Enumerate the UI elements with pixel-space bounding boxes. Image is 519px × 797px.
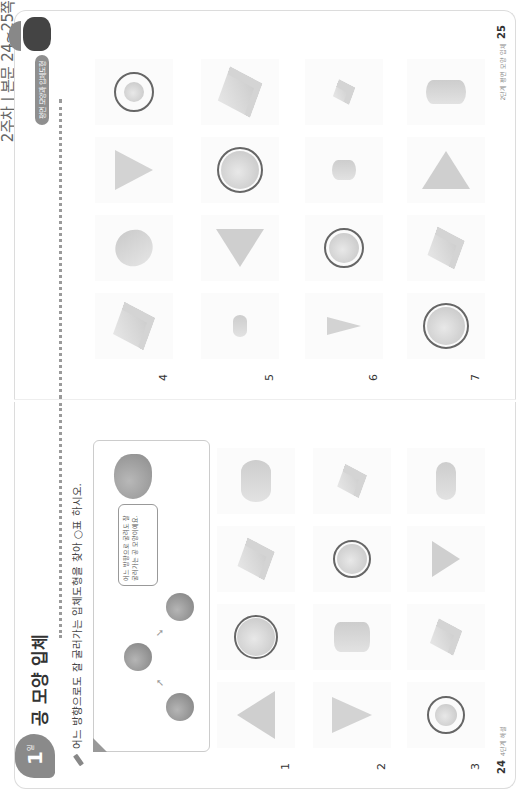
choice-cube[interactable] — [201, 59, 279, 125]
question-row-2: 2 — [313, 420, 393, 770]
ball-icon — [166, 693, 194, 721]
pyramid-icon — [216, 229, 264, 267]
arrow-icon: ➘ — [154, 629, 165, 637]
circle-mark — [423, 303, 469, 349]
page-footer: 2단계 평면 모양 입체25 — [496, 25, 507, 104]
circle-mark — [234, 615, 278, 659]
arrow-icon: ➚ — [154, 679, 165, 687]
question-row-3: 3 — [407, 420, 487, 770]
choice-pyramid[interactable] — [407, 526, 485, 592]
choice-sphere[interactable] — [217, 604, 295, 670]
choice-pyramid[interactable] — [217, 682, 295, 748]
instruction-text: 어느 방향으로도 잘 굴러가는 입체도형을 찾아 ○표 하시오. — [71, 483, 83, 749]
question-row-6: 6 — [305, 31, 385, 381]
question-row-7: 7 — [407, 31, 487, 381]
section-tag: 평면 모양과 입체도형 — [35, 55, 49, 125]
choice-cylinder[interactable] — [217, 448, 295, 514]
question-number: 3 — [469, 763, 482, 770]
pyramid-icon — [422, 151, 470, 189]
cube-icon — [333, 79, 355, 104]
question-row-4: 4 — [95, 31, 175, 381]
corner-fold-icon — [93, 738, 107, 752]
question-number: 4 — [157, 374, 170, 381]
cube-icon — [430, 619, 462, 656]
choice-cone[interactable] — [313, 682, 391, 748]
cylinder-disc-icon — [233, 315, 247, 337]
pyramid-icon — [237, 691, 275, 739]
choice-disc[interactable] — [201, 293, 279, 359]
choice-cube[interactable] — [95, 293, 173, 359]
instruction: 어느 방향으로도 잘 굴러가는 입체도형을 찾아 ○표 하시오. — [69, 483, 84, 766]
pencil-icon — [73, 754, 84, 767]
speech-bubble: 어느 방향으로 굴려도 잘 굴러가는 공 모양이에요. — [118, 504, 158, 586]
mascot-icon — [114, 454, 152, 499]
choice-cube[interactable] — [305, 59, 383, 125]
page-number: 25 — [496, 25, 507, 39]
page-24: 1 일 공 모양 입체 어느 방향으로도 잘 굴러가는 입체도형을 찾아 ○표 … — [14, 402, 516, 789]
dotted-divider — [59, 403, 62, 638]
choice-cube[interactable] — [217, 526, 295, 592]
cube-icon — [337, 464, 367, 498]
day-label: 일 — [25, 745, 35, 751]
choice-cylinder[interactable] — [407, 448, 485, 514]
choice-sphere[interactable] — [407, 293, 485, 359]
question-number: 5 — [263, 374, 276, 381]
cylinder-icon — [436, 462, 456, 500]
question-number: 6 — [367, 374, 380, 381]
choice-sphere[interactable] — [95, 59, 173, 125]
choice-pyramid[interactable] — [201, 215, 279, 281]
footer-label: 2단계 평면 모양 입체 — [499, 43, 506, 101]
question-row-1: 1 — [217, 420, 297, 770]
cylinder-icon — [108, 222, 160, 273]
cube-icon — [218, 67, 262, 118]
cylinder-icon — [426, 80, 466, 104]
question-number: 1 — [279, 763, 292, 770]
choice-cylinder[interactable] — [313, 604, 391, 670]
question-number: 2 — [375, 763, 388, 770]
mascot-icon — [23, 17, 51, 51]
page-number: 24 — [496, 760, 507, 774]
footer-label: 4단계 해설 — [499, 726, 506, 756]
cylinder-icon — [241, 460, 271, 502]
choice-cube[interactable] — [407, 215, 485, 281]
circle-mark — [333, 540, 371, 578]
choice-pyramid[interactable] — [407, 137, 485, 203]
page-25: 평면 모양과 입체도형 4 5 6 7 — [14, 10, 516, 400]
page-title: 공 모양 입체 — [26, 634, 51, 726]
day-badge: 1 일 — [15, 734, 55, 778]
question-row-5: 5 — [201, 31, 281, 381]
cylinder-icon — [332, 160, 356, 180]
choice-cylinder[interactable] — [305, 137, 383, 203]
cone-icon — [332, 697, 372, 733]
choice-sphere[interactable] — [407, 682, 485, 748]
circle-mark — [217, 147, 263, 193]
two-page-spread: 2주차 | 본문 24~25쪽 1 일 공 모양 입체 어느 방향으로도 잘 굴… — [0, 0, 519, 797]
choice-cylinder[interactable] — [95, 215, 173, 281]
pyramid-icon — [432, 541, 460, 577]
circle-mark — [324, 228, 364, 268]
cube-icon — [113, 302, 155, 350]
choice-cylinder[interactable] — [407, 59, 485, 125]
circle-mark — [427, 696, 465, 734]
cylinder-icon — [334, 622, 370, 652]
umbrella-icon — [9, 21, 21, 51]
day-number: 1 — [23, 751, 47, 765]
choice-cube[interactable] — [313, 448, 391, 514]
ball-icon — [166, 593, 194, 621]
choice-sphere[interactable] — [201, 137, 279, 203]
ball-icon — [124, 643, 152, 671]
question-number: 7 — [469, 374, 482, 381]
cube-icon — [237, 538, 274, 580]
choice-cone[interactable] — [305, 293, 383, 359]
choice-sphere[interactable] — [313, 526, 391, 592]
choice-cone[interactable] — [95, 137, 173, 203]
dotted-divider — [59, 99, 62, 399]
page-footer: 244단계 해설 — [496, 722, 507, 774]
choice-cube[interactable] — [407, 604, 485, 670]
choice-sphere[interactable] — [305, 215, 383, 281]
example-box: ➚ ➘ 어느 방향으로 굴려도 잘 굴러가는 공 모양이에요. — [93, 440, 210, 752]
cone-icon — [115, 150, 153, 190]
cone-icon — [327, 317, 361, 335]
cube-icon — [427, 227, 464, 269]
circle-mark — [114, 72, 154, 112]
